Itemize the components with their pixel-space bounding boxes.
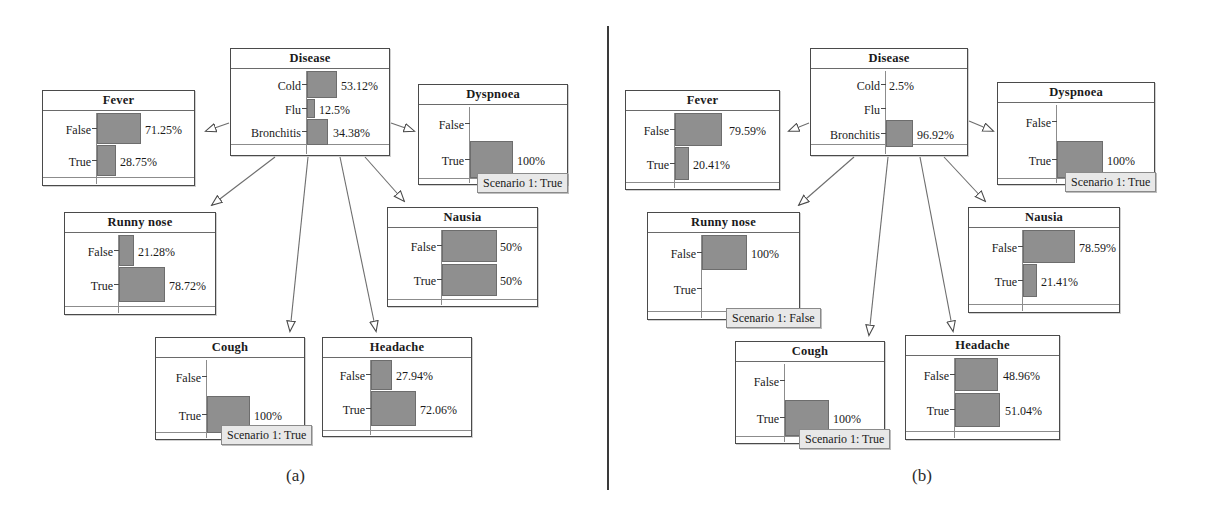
body-baseline [969, 304, 1119, 305]
node-body: False 27.94% True 72.06% [323, 358, 471, 437]
probability-bar [955, 393, 1000, 427]
state-label: False [439, 119, 464, 131]
state-row: False 50% [388, 230, 537, 262]
probability-bar [442, 230, 497, 262]
probability-bar [307, 99, 315, 118]
state-label: Flu [285, 104, 301, 116]
probability-bar [97, 145, 116, 176]
node-title: Fever [626, 91, 779, 111]
state-row: False 48.96% [906, 358, 1059, 391]
state-label: True [757, 413, 779, 425]
state-row: True 21.41% [969, 264, 1119, 297]
state-row: False [998, 105, 1154, 139]
node-nausia-b[interactable]: Nausia False 78.59% True 21.41% [968, 207, 1120, 313]
bar-value: 79.59% [729, 125, 766, 137]
node-dyspnoea-b[interactable]: Dyspnoea False True 100% [997, 82, 1155, 185]
bar-value: 100% [1107, 155, 1135, 167]
bar-value: 48.96% [1003, 370, 1040, 382]
state-label: False [340, 370, 365, 382]
state-row: True [648, 271, 799, 306]
node-title: Nausia [388, 208, 537, 228]
node-disease-a[interactable]: Disease Cold 53.12% Flu 12.5% Bronchitis [230, 48, 390, 156]
node-title: Fever [43, 91, 194, 111]
scenario-chip-cough-a[interactable]: Scenario 1: True [221, 425, 312, 445]
probability-bar [886, 120, 913, 147]
state-label: True [1029, 155, 1051, 167]
probability-bar [702, 235, 747, 270]
bar-value: 96.92% [917, 129, 954, 141]
node-dyspnoea-a[interactable]: Dyspnoea False True 100% [418, 84, 568, 185]
bar-value: 100% [833, 413, 861, 425]
probability-bar [675, 113, 722, 146]
state-label: False [754, 376, 779, 388]
bar-value: 21.41% [1041, 276, 1078, 288]
state-label: False [644, 125, 669, 137]
node-title: Headache [906, 336, 1059, 356]
state-label: Flu [864, 104, 880, 116]
state-row: True 78.72% [65, 267, 215, 302]
body-baseline [906, 431, 1059, 432]
state-label: True [91, 280, 113, 292]
state-row: False 71.25% [43, 113, 194, 144]
node-runny-nose-a[interactable]: Runny nose False 21.28% True 78.72% [64, 212, 216, 315]
state-tick [881, 108, 886, 109]
state-row: False [156, 360, 304, 394]
node-body: False 100% True [648, 233, 799, 320]
node-headache-b[interactable]: Headache False 48.96% True 51.04% [905, 335, 1060, 440]
node-body: False 21.28% True 78.72% [65, 233, 215, 315]
bar-value: 51.04% [1005, 405, 1042, 417]
node-disease-b[interactable]: Disease Cold 2.5% Flu Bronchitis 96.92% [810, 48, 968, 156]
state-row: Flu 12.5% [231, 99, 389, 118]
node-title: Cough [156, 338, 304, 358]
state-label: False [924, 370, 949, 382]
bar-value: 50% [500, 275, 522, 287]
bar-value: 53.12% [341, 80, 378, 92]
state-label: True [414, 275, 436, 287]
scenario-chip-dyspnoea-a[interactable]: Scenario 1: True [477, 173, 568, 193]
node-body: False 50% True 50% [388, 228, 537, 307]
state-label: False [1026, 117, 1051, 129]
bar-value: 100% [751, 248, 779, 260]
bar-value: 21.28% [138, 246, 175, 258]
state-label: False [992, 242, 1017, 254]
body-baseline [323, 430, 471, 431]
node-title: Headache [323, 338, 471, 358]
state-label: True [179, 410, 201, 422]
bar-value: 100% [254, 410, 282, 422]
node-nausia-a[interactable]: Nausia False 50% True 50% [387, 207, 538, 307]
scenario-chip-dyspnoea-b[interactable]: Scenario 1: True [1065, 172, 1156, 192]
state-label: False [671, 248, 696, 260]
bar-value: 100% [517, 155, 545, 167]
probability-bar [675, 147, 689, 180]
panel-caption-b: (b) [912, 466, 932, 486]
body-baseline [626, 182, 779, 183]
state-label: False [88, 246, 113, 258]
state-tick [465, 123, 470, 124]
node-runny-nose-b[interactable]: Runny nose False 100% True [647, 212, 800, 320]
node-title: Cough [736, 342, 884, 362]
panel-caption-a: (a) [286, 466, 305, 486]
node-body: Cold 2.5% Flu Bronchitis 96.92% [811, 69, 967, 156]
state-row: False 100% [648, 235, 799, 270]
scenario-chip-cough-b[interactable]: Scenario 1: True [799, 429, 890, 449]
panel-divider [607, 26, 609, 490]
node-body: False 48.96% True 51.04% [906, 356, 1059, 440]
state-row: Bronchitis 96.92% [811, 120, 967, 147]
probability-bar [955, 358, 998, 391]
node-headache-a[interactable]: Headache False 27.94% True 72.06% [322, 337, 472, 437]
state-label: Bronchitis [830, 129, 880, 141]
bar-value: 78.72% [169, 280, 206, 292]
state-row: False 21.28% [65, 235, 215, 266]
state-label: True [674, 284, 696, 296]
node-body: False 78.59% True 21.41% [969, 228, 1119, 313]
scenario-chip-runny-nose-b[interactable]: Scenario 1: False [726, 308, 821, 328]
node-fever-b[interactable]: Fever False 79.59% True 20.41% [625, 90, 780, 190]
state-label: Cold [857, 80, 880, 92]
node-fever-a[interactable]: Fever False 71.25% True 28.75% [42, 90, 195, 186]
bar-value: 2.5% [889, 80, 914, 92]
bar-value: 71.25% [145, 124, 182, 136]
state-label: False [411, 241, 436, 253]
bar-value: 12.5% [319, 104, 350, 116]
state-label: True [69, 156, 91, 168]
probability-bar [442, 264, 497, 296]
